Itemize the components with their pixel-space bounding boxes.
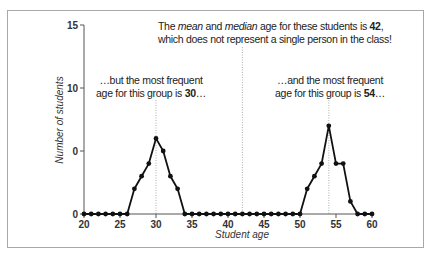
data-point bbox=[341, 161, 346, 166]
annotation-text: age for these students is bbox=[257, 20, 369, 32]
y-tick-label: 0 bbox=[72, 146, 78, 157]
annotation-mode-30: …but the most frequent age for this grou… bbox=[96, 74, 206, 99]
x-tick-label: 50 bbox=[294, 219, 306, 230]
x-axis-title: Student age bbox=[215, 229, 269, 240]
data-point bbox=[154, 136, 159, 141]
y-axis-title: Number of students bbox=[54, 76, 65, 163]
data-point bbox=[211, 212, 216, 217]
x-tick-label: 60 bbox=[366, 219, 378, 230]
data-point bbox=[125, 212, 130, 217]
data-point bbox=[204, 212, 209, 217]
data-point bbox=[254, 212, 259, 217]
annotation-text: age for this group is bbox=[96, 87, 185, 99]
annotation-value: 54 bbox=[364, 87, 375, 99]
data-point bbox=[362, 212, 367, 217]
data-point bbox=[168, 174, 173, 179]
data-point bbox=[96, 212, 101, 217]
y-tick-label: 0 bbox=[72, 209, 78, 220]
annotation-mean-median-line1: The mean and median age for these studen… bbox=[158, 20, 328, 33]
annotation-mean-median-line2: which does not represent a single person… bbox=[158, 33, 328, 46]
annotation-mode-54-line2: age for this group is 54… bbox=[275, 87, 385, 100]
data-point bbox=[233, 212, 238, 217]
data-point bbox=[161, 149, 166, 154]
y-tick-label: 15 bbox=[67, 20, 79, 31]
annotation-mode-54: …and the most frequent age for this grou… bbox=[275, 74, 385, 99]
data-point bbox=[197, 212, 202, 217]
data-point bbox=[283, 212, 288, 217]
annotation-text: … bbox=[375, 87, 385, 99]
data-point bbox=[370, 212, 375, 217]
data-point bbox=[269, 212, 274, 217]
annotation-value: 30 bbox=[185, 87, 196, 99]
data-point bbox=[118, 212, 123, 217]
data-point bbox=[262, 212, 267, 217]
annotation-text: and bbox=[203, 20, 225, 32]
data-point bbox=[348, 199, 353, 204]
annotation-value: 42 bbox=[370, 20, 381, 32]
data-point bbox=[276, 212, 281, 217]
x-tick-label: 35 bbox=[186, 219, 198, 230]
annotation-text: age for this group is bbox=[275, 87, 364, 99]
data-point bbox=[132, 186, 137, 191]
data-point bbox=[240, 212, 245, 217]
data-point bbox=[226, 212, 231, 217]
annotation-mode-30-line2: age for this group is 30… bbox=[96, 87, 206, 100]
annotation-mode-30-line1: …but the most frequent bbox=[96, 74, 206, 87]
data-point bbox=[139, 174, 144, 179]
data-series bbox=[82, 123, 375, 216]
data-point bbox=[319, 161, 324, 166]
data-point bbox=[82, 212, 87, 217]
data-point bbox=[334, 161, 339, 166]
data-point bbox=[190, 212, 195, 217]
y-tick-label: 10 bbox=[67, 83, 79, 94]
data-point bbox=[218, 212, 223, 217]
data-point bbox=[355, 212, 360, 217]
data-point bbox=[182, 212, 187, 217]
axes: 001015202530354045505560 bbox=[67, 20, 378, 231]
data-point bbox=[298, 212, 303, 217]
annotation-text: median bbox=[225, 20, 258, 32]
reference-lines bbox=[156, 47, 329, 214]
data-point bbox=[110, 212, 115, 217]
annotation-text: … bbox=[196, 87, 206, 99]
data-point bbox=[290, 212, 295, 217]
data-point bbox=[312, 174, 317, 179]
data-point bbox=[146, 161, 151, 166]
annotation-text: , bbox=[381, 20, 384, 32]
data-point bbox=[89, 212, 94, 217]
x-tick-label: 25 bbox=[114, 219, 126, 230]
annotation-text: mean bbox=[178, 20, 203, 32]
x-tick-label: 20 bbox=[78, 219, 90, 230]
data-point bbox=[247, 212, 252, 217]
x-tick-label: 30 bbox=[150, 219, 162, 230]
data-point bbox=[103, 212, 108, 217]
data-point bbox=[175, 186, 180, 191]
annotation-mode-54-line1: …and the most frequent bbox=[275, 74, 385, 87]
data-point bbox=[326, 123, 331, 128]
annotation-text: The bbox=[158, 20, 178, 32]
annotation-mean-median: The mean and median age for these studen… bbox=[158, 20, 328, 45]
x-tick-label: 55 bbox=[330, 219, 342, 230]
data-point bbox=[305, 186, 310, 191]
